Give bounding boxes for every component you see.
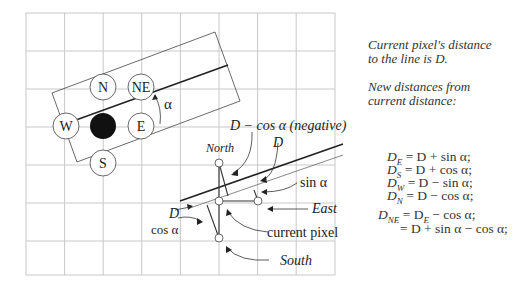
equation-dne-cont: = D + sin α − cos α; — [400, 222, 508, 235]
notes-block: Current pixel's distance to the line is … — [368, 38, 492, 108]
label-e: E — [137, 119, 146, 134]
alpha-label: α — [164, 96, 172, 112]
note-line-4: current distance: — [368, 94, 492, 108]
current-pixel-dot — [90, 113, 116, 139]
alpha-arc — [155, 96, 160, 124]
south-label: South — [280, 253, 312, 268]
note-line-1: Current pixel's distance — [368, 38, 492, 52]
label-ne: NE — [132, 80, 151, 95]
note-line-3: New distances from — [368, 80, 492, 94]
note-line-2: to the line is D. — [368, 52, 492, 66]
sin-label: sin α — [300, 175, 328, 190]
line-lower — [180, 144, 343, 201]
label-s: S — [99, 156, 107, 171]
d-top-label: D — [272, 135, 283, 150]
label-n: N — [98, 80, 108, 95]
alpha-arrowhead — [152, 94, 158, 100]
east-label: East — [311, 201, 338, 216]
north-label: North — [205, 141, 234, 155]
equation-dn: DN = D − cos α; — [387, 189, 473, 208]
current-pixel-label: current pixel — [267, 225, 338, 240]
label-w: W — [59, 119, 73, 134]
cos-label: cos α — [151, 222, 179, 237]
d-left-label: D — [168, 206, 179, 221]
neg-label: D − cos α (negative) — [229, 118, 347, 134]
